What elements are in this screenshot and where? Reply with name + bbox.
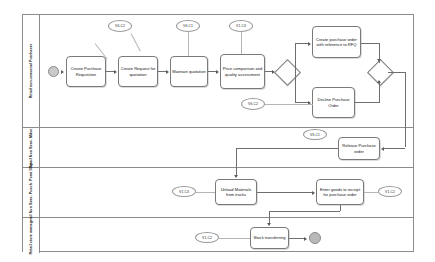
flow-arrow [377, 59, 381, 62]
flow-arrow [312, 191, 315, 195]
task-unload-materials[interactable]: Unload Materials from trucks [215, 179, 257, 205]
annotation-label: V6.C2 [248, 102, 258, 106]
task-create-purchase-order[interactable]: Create purchase order with reference to … [312, 26, 361, 58]
lane-header-store-manager: Retail store manager [23, 218, 40, 253]
annotation-v6c2-requisition: V6.C2 [108, 20, 132, 32]
flow-connector [388, 72, 406, 73]
flow-arrow [216, 70, 219, 74]
flow-arrow [308, 42, 311, 46]
flow-arrow [267, 223, 271, 226]
annotation-link [196, 192, 215, 193]
flow-connector [257, 192, 314, 193]
task-maintain-quotation[interactable]: Maintain quotation [170, 56, 208, 87]
task-decline-purchase-order[interactable]: Decline Purchase Order [312, 87, 355, 118]
start-event [48, 66, 59, 77]
task-label: Release Purchase order [340, 143, 378, 153]
flow-connector [340, 205, 341, 211]
annotation-v6c2-decline: V6.C2 [241, 98, 265, 110]
annotation-v1c3-price: V1.C3 [229, 20, 253, 32]
lane-non-seas-mdse: Retail Non Seas. Mdse. Release Purchase … [23, 128, 413, 168]
task-label: Create purchase order with reference to … [314, 37, 359, 47]
lane-label-store-manager: Retail store manager [29, 217, 33, 254]
flow-arrow [304, 237, 307, 241]
annotation-label: V1.C2 [202, 236, 212, 240]
lane-goods-recv: Retail Non Seas. Pusch. Pomt Disp. Unloa… [23, 168, 413, 218]
lane-store-manager: Retail store manager Stock transferring … [23, 218, 413, 253]
task-create-purchase-requisition[interactable]: Create Purchase Requisition [66, 56, 106, 87]
task-create-request-for-quotation[interactable]: Create Request for quotation [118, 56, 158, 87]
task-label: Price comparison and quality assessment [222, 66, 263, 76]
annotation-label: V6.C1 [310, 133, 320, 137]
flow-arrow [61, 70, 64, 74]
flow-connector [361, 43, 380, 44]
flow-connector [295, 71, 296, 103]
task-label: Create Request for quotation [120, 66, 156, 76]
annotation-link [241, 32, 242, 54]
gateway-split[interactable] [274, 59, 301, 86]
annotation-link [364, 192, 378, 193]
annotation-v1c2-goods-receipt: V1.C2 [378, 186, 402, 197]
annotation-label: V6.C1 [183, 24, 193, 28]
lane-header-goods-recv: Retail Non Seas. Pusch. Pomt Disp. [23, 168, 40, 217]
task-label: Decline Purchase Order [314, 97, 353, 107]
flow-arrow [377, 80, 381, 83]
task-label: Maintain quotation [172, 69, 205, 74]
flow-connector [269, 211, 340, 212]
annotation-label: V1.C3 [179, 190, 189, 194]
task-release-purchase-order[interactable]: Release Purchase order [338, 137, 380, 160]
lane-header-purchaser: Retail non-seasonal Purchaser [23, 15, 40, 127]
annotation-label: V1.C2 [385, 190, 395, 194]
task-label: Stock transferring [253, 235, 285, 240]
annotation-v1c3-unload: V1.C3 [172, 186, 196, 197]
flow-connector [236, 148, 237, 168]
task-stock-transferring[interactable]: Stock transferring [250, 227, 289, 249]
annotation-label: V1.C3 [236, 24, 246, 28]
lane-purchaser: Retail non-seasonal Purchaser Create Pur… [23, 15, 413, 128]
lane-label-goods-recv: Retail Non Seas. Pusch. Pomt Disp. [29, 161, 33, 224]
annotation-link [265, 104, 313, 105]
task-label: Enter goods to receipt for purchase orde… [318, 187, 362, 197]
flow-connector [236, 148, 338, 149]
annotation-v1c2-stock: V1.C2 [195, 232, 219, 243]
task-price-comparison[interactable]: Price comparison and quality assessment [220, 54, 265, 89]
flow-arrow [234, 175, 238, 178]
lane-label-purchaser: Retail non-seasonal Purchaser [29, 44, 33, 99]
flow-arrow [166, 70, 169, 74]
flow-connector [379, 81, 380, 102]
diagram-canvas: Retail non-seasonal Purchaser Create Pur… [0, 0, 435, 262]
annotation-link [131, 33, 141, 51]
task-label: Unload Materials from trucks [217, 187, 255, 197]
flow-connector [295, 43, 296, 72]
annotation-v6c1-release: V6.C1 [303, 129, 327, 140]
annotation-v6c1-quotation: V6.C1 [176, 20, 200, 32]
annotation-link [219, 238, 250, 239]
task-label: Create Purchase Requisition [68, 66, 104, 76]
annotation-label: V6.C2 [115, 24, 125, 28]
flow-connector [384, 148, 405, 149]
annotation-link [188, 32, 189, 56]
flow-arrow [114, 70, 117, 74]
flow-connector [355, 102, 380, 103]
end-event [309, 232, 321, 244]
process-pool: Retail non-seasonal Purchaser Create Pur… [22, 14, 414, 252]
task-enter-goods-receipt[interactable]: Enter goods to receipt for purchase orde… [316, 179, 364, 205]
